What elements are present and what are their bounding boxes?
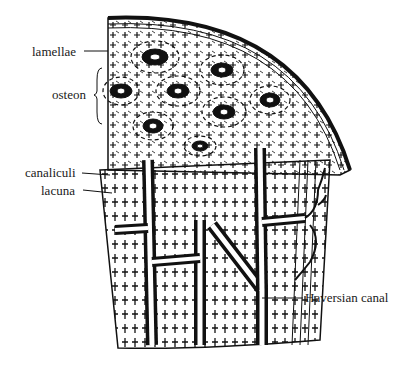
label-canaliculi: canaliculi: [25, 166, 76, 179]
label-osteon: osteon: [52, 88, 86, 101]
label-haversian-canal: Haversian canal: [305, 291, 388, 304]
label-lamellae: lamellae: [32, 45, 76, 58]
cross-section-top: [103, 18, 350, 175]
label-lacuna: lacuna: [41, 184, 75, 197]
longitudinal-section: [100, 148, 330, 348]
